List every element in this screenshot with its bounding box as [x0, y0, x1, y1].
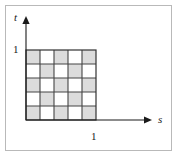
- grid-cell: [82, 50, 96, 64]
- grid-cell: [82, 78, 96, 92]
- s-axis-label: s: [158, 114, 162, 125]
- grid-cell: [82, 106, 96, 120]
- grid-cell: [54, 106, 68, 120]
- figure-container: t s 1 1: [0, 0, 178, 157]
- s-axis-tick-label: 1: [91, 131, 97, 142]
- grid-cell: [26, 64, 40, 78]
- grid-cell: [68, 106, 82, 120]
- grid-cell: [40, 78, 54, 92]
- grid-cell: [40, 50, 54, 64]
- grid-cell: [82, 64, 96, 78]
- diagram-canvas: [0, 0, 178, 157]
- grid-cell: [68, 64, 82, 78]
- checkerboard-grid: [26, 50, 96, 120]
- arrow-right-icon: [144, 116, 152, 123]
- grid-cell: [26, 78, 40, 92]
- arrow-up-icon: [22, 16, 29, 24]
- grid-cell: [54, 50, 68, 64]
- grid-cell: [68, 92, 82, 106]
- grid-cell: [68, 78, 82, 92]
- t-axis-label: t: [14, 12, 17, 23]
- grid-cell: [54, 64, 68, 78]
- grid-cell: [82, 92, 96, 106]
- grid-cell: [54, 92, 68, 106]
- t-axis-tick-label: 1: [13, 44, 19, 55]
- grid-cell: [40, 92, 54, 106]
- grid-cell: [26, 50, 40, 64]
- grid-cell: [40, 106, 54, 120]
- grid-cell: [26, 92, 40, 106]
- grid-cell: [26, 106, 40, 120]
- grid-cell: [54, 78, 68, 92]
- grid-cell: [68, 50, 82, 64]
- grid-cell: [40, 64, 54, 78]
